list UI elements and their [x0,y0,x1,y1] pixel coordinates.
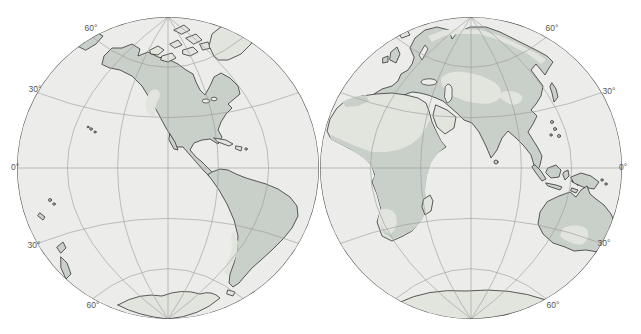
eastern-hemisphere [320,17,622,320]
philippines-island-2 [554,128,557,131]
latitude-label: 0° [619,162,627,172]
latitude-label: 30° [598,238,611,248]
latitude-label: 30° [603,86,616,96]
hawaii-island-2 [94,131,96,133]
hawaii-island-1 [90,128,93,131]
sri-lanka [494,160,498,164]
philippines-island-1 [551,121,554,124]
hawaii-island-3 [87,126,89,128]
philippines-island-4 [550,134,552,136]
latitude-label: 60° [546,23,559,33]
tonga-island [53,203,55,205]
philippines-island-3 [558,135,561,138]
tasmania [597,262,603,269]
caspian-sea [444,84,452,103]
latitude-label: 30° [28,240,41,250]
double-hemisphere-world-map: 60°30°0°30°60° 60°30°0°30°60° [0,0,641,334]
latitude-label: 60° [85,23,98,33]
antarctica-east [398,290,546,320]
latitude-label: 30° [29,84,42,94]
black-sea [421,79,437,85]
fiji-island [49,199,52,202]
solomon-island-2 [605,183,607,185]
western-hemisphere [17,17,319,319]
great-lakes-east [211,97,217,101]
latitude-label: 60° [87,300,100,310]
solomon-island-1 [601,179,603,181]
world-map-page: 60°30°0°30°60° 60°30°0°30°60° [0,0,641,334]
latitude-label: 60° [547,300,560,310]
latitude-label: 0° [11,162,19,172]
puerto-rico [245,148,247,150]
